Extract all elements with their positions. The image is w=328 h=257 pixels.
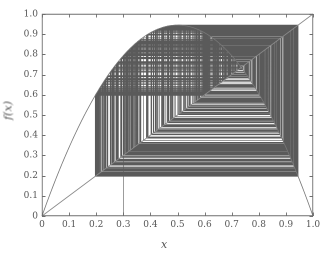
plot-canvas — [0, 0, 328, 257]
y-axis-label: f(x) — [2, 87, 15, 135]
y-axis-label-text: f(x) — [2, 101, 15, 120]
cobweb-plot-figure: x f(x) — [0, 0, 328, 257]
x-axis-label: x — [0, 238, 328, 251]
